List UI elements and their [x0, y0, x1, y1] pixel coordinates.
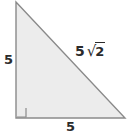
hypotenuse-coefficient: 5 [75, 43, 85, 59]
right-triangle-shape [0, 0, 134, 135]
triangle-polygon [16, 2, 125, 118]
left-leg-length-label: 5 [4, 53, 13, 66]
radical-expression: √2 [87, 44, 106, 59]
bottom-leg-length-label: 5 [66, 120, 75, 133]
radicand-value: 2 [95, 42, 105, 59]
geometry-figure: 5 5 5√2 [0, 0, 134, 135]
hypotenuse-length-label: 5√2 [75, 44, 105, 59]
